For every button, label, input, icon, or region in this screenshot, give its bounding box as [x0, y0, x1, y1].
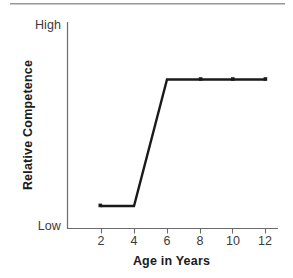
x-tick-label-2: 2	[88, 234, 114, 248]
x-tick-label-4: 4	[121, 234, 147, 248]
competence-series-line	[101, 80, 267, 207]
data-point-age-12	[264, 77, 268, 81]
data-point-age-2	[99, 204, 103, 208]
y-axis-label-low: Low	[1, 220, 61, 233]
x-tick-label-6: 6	[154, 234, 180, 248]
x-axis-ticks	[102, 229, 266, 234]
data-point-age-10	[231, 77, 235, 81]
y-axis-title: Relative Competence	[21, 60, 35, 190]
chart-figure: High Low 2 4 6 8 10 12 Age in Years Rela…	[0, 0, 293, 278]
x-tick-label-10: 10	[220, 234, 246, 248]
y-axis-label-high: High	[1, 19, 61, 32]
x-axis-title: Age in Years	[0, 254, 293, 268]
x-tick-label-8: 8	[187, 234, 213, 248]
data-point-age-8	[199, 77, 203, 81]
x-tick-label-12: 12	[252, 234, 278, 248]
competence-series-markers	[99, 77, 268, 207]
